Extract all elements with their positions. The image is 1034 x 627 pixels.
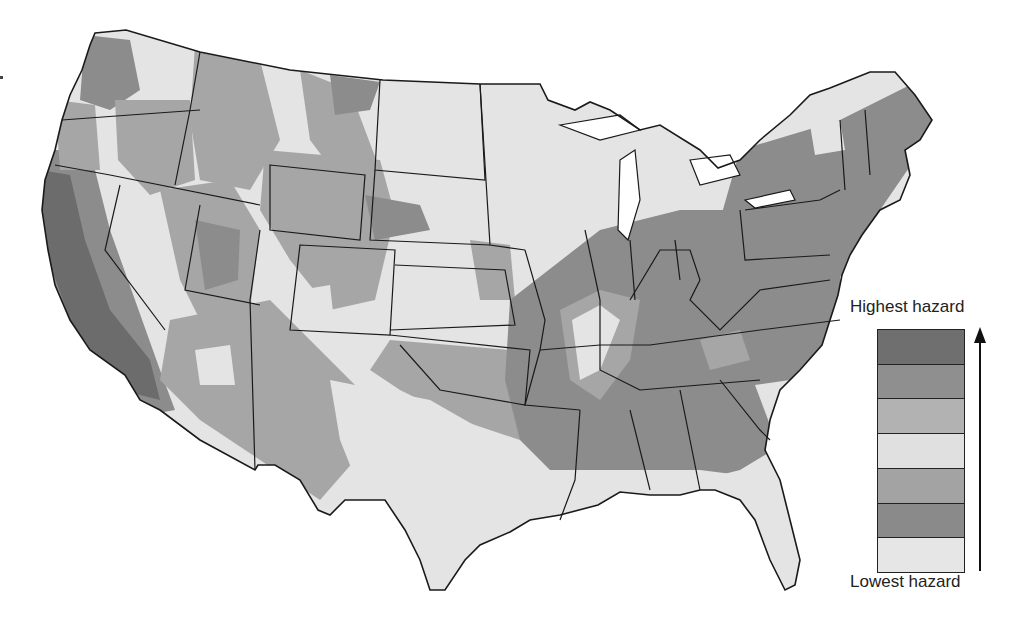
legend-swatch-3	[878, 469, 964, 504]
legend-swatch-2	[878, 504, 964, 539]
legend-highest-label: Highest hazard	[850, 297, 964, 317]
legend-swatch-4	[878, 434, 964, 469]
legend-scale	[877, 329, 965, 573]
legend-swatch-1	[878, 538, 964, 572]
legend-swatch-5	[878, 399, 964, 434]
hazard-map: Highest hazard Lowest hazard	[0, 0, 1034, 627]
legend-lowest-label: Lowest hazard	[850, 572, 961, 592]
arrow-up-icon	[979, 331, 981, 571]
legend-swatch-7	[878, 330, 964, 365]
legend-swatch-6	[878, 365, 964, 400]
